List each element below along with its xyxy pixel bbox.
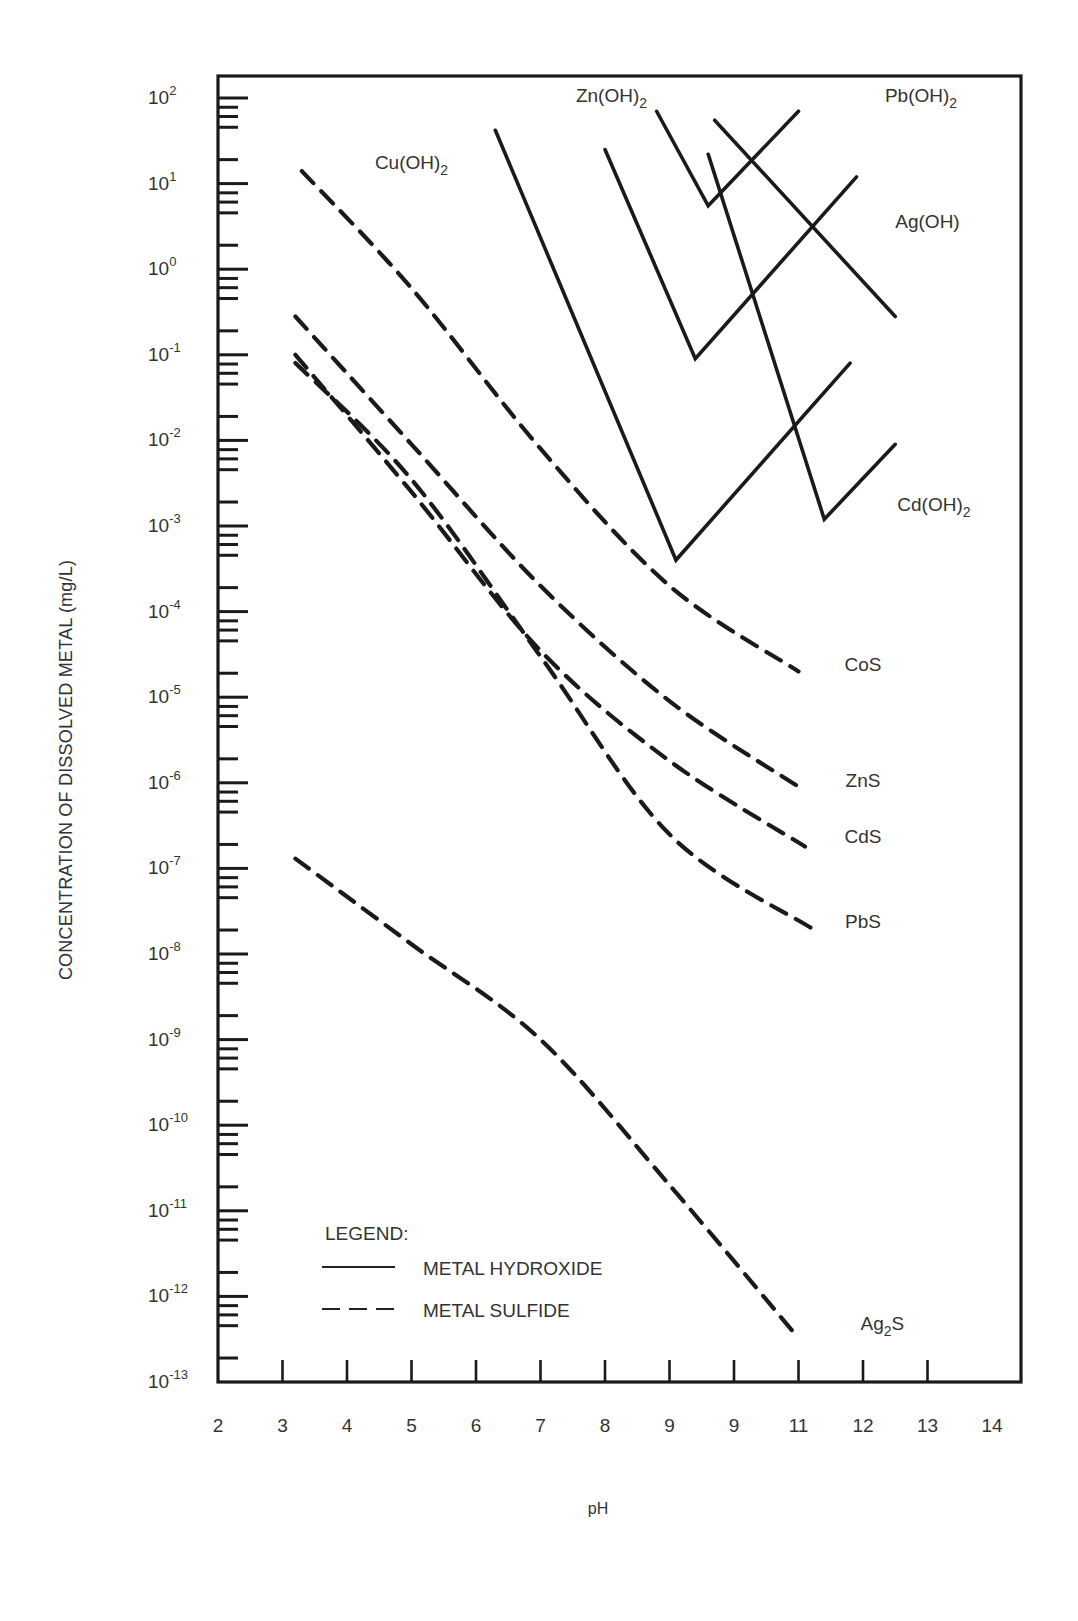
legend: LEGEND: METAL HYDROXIDE METAL SULFIDE xyxy=(322,1223,602,1321)
curve-label: PbS xyxy=(845,911,881,932)
series-zns xyxy=(295,317,798,787)
y-tick-label: 10-9 xyxy=(148,1025,181,1050)
x-tick-label: 7 xyxy=(535,1415,546,1436)
x-axis-title: pH xyxy=(588,1500,608,1518)
y-tick-label: 10-12 xyxy=(148,1281,188,1306)
curve-label: Zn(OH)2 xyxy=(576,85,647,111)
y-axis-ticks: 10210110010-110-210-310-410-510-610-710-… xyxy=(148,83,248,1392)
curve-label: Ag2S xyxy=(860,1313,904,1339)
plot-frame xyxy=(218,76,1021,1382)
legend-title: LEGEND: xyxy=(325,1223,408,1244)
curve-label: Cu(OH)2 xyxy=(375,152,448,178)
x-axis-ticks: 23456789911121314 xyxy=(213,1360,1003,1436)
y-tick-label: 10-13 xyxy=(148,1367,188,1392)
plot-border xyxy=(218,76,1021,1382)
curve-label: ZnS xyxy=(846,770,881,791)
curve-label: Pb(OH)2 xyxy=(885,85,957,111)
chart-plot: 10210110010-110-210-310-410-510-610-710-… xyxy=(0,0,1078,1621)
x-tick-label: 3 xyxy=(277,1415,288,1436)
y-tick-label: 10-7 xyxy=(148,853,181,878)
y-tick-label: 102 xyxy=(148,83,176,108)
legend-sulfide-label: METAL SULFIDE xyxy=(423,1300,570,1321)
y-tick-label: 10-10 xyxy=(148,1110,188,1135)
y-tick-label: 10-8 xyxy=(148,939,181,964)
x-tick-label: 6 xyxy=(471,1415,482,1436)
curve-labels: Zn(OH)2Pb(OH)2Cu(OH)2Ag(OH)Cd(OH)2CoSZnS… xyxy=(375,85,971,1340)
x-tick-label: 8 xyxy=(600,1415,611,1436)
x-tick-label: 14 xyxy=(981,1415,1003,1436)
y-tick-label: 10-2 xyxy=(148,425,181,450)
y-tick-label: 10-3 xyxy=(148,511,181,536)
series-cd-oh-2 xyxy=(708,154,895,519)
legend-hydroxide-label: METAL HYDROXIDE xyxy=(423,1258,602,1279)
x-tick-label: 12 xyxy=(852,1415,873,1436)
x-tick-label: 11 xyxy=(789,1415,809,1436)
y-tick-label: 10-11 xyxy=(148,1196,187,1221)
curve-label: Ag(OH) xyxy=(895,211,959,232)
series-ag-oh- xyxy=(715,120,896,316)
series-pb-oh-2 xyxy=(657,111,799,206)
curve-label: CdS xyxy=(845,826,882,847)
y-tick-label: 10-4 xyxy=(148,597,181,622)
y-axis-title: CONCENTRATION OF DISSOLVED METAL (mg/L) xyxy=(56,560,77,980)
y-tick-label: 10-5 xyxy=(148,682,181,707)
curve-label: CoS xyxy=(845,654,882,675)
series-zn-oh-2 xyxy=(495,130,850,560)
y-tick-label: 101 xyxy=(148,169,176,194)
y-tick-label: 10-1 xyxy=(148,340,181,365)
x-tick-label: 2 xyxy=(213,1415,224,1436)
x-tick-label: 9 xyxy=(664,1415,675,1436)
y-tick-label: 10-6 xyxy=(148,768,181,793)
y-tick-label: 100 xyxy=(148,254,176,279)
curve-label: Cd(OH)2 xyxy=(897,494,970,520)
x-tick-label: 13 xyxy=(917,1415,938,1436)
x-tick-label: 4 xyxy=(342,1415,353,1436)
x-tick-label: 5 xyxy=(406,1415,417,1436)
x-tick-label: 9 xyxy=(729,1415,740,1436)
series-cds xyxy=(295,355,805,847)
data-series xyxy=(295,111,895,1330)
